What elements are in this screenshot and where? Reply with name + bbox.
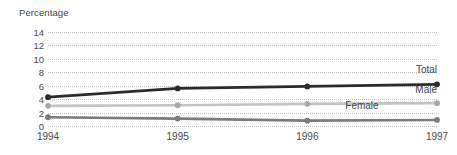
gridline [48, 126, 437, 127]
y-axis-tick-label: 4 [22, 94, 44, 105]
data-point-marker [45, 114, 51, 120]
data-point-marker [304, 118, 310, 124]
y-axis-title: Percentage [19, 7, 69, 18]
series-line [48, 103, 437, 106]
x-axis-labels: 1994199519961997 [48, 131, 437, 151]
series-label-male: Male [415, 84, 437, 95]
y-axis-tick-label: 0 [22, 121, 44, 132]
series-label-total: Total [416, 64, 437, 75]
plot-area [48, 32, 437, 126]
series-label-female: Female [345, 100, 378, 111]
y-axis-tick-label: 14 [22, 27, 44, 38]
data-point-marker [304, 83, 310, 89]
y-axis-tick-label: 12 [22, 40, 44, 51]
data-point-marker [175, 102, 181, 108]
data-point-marker [175, 86, 181, 92]
series-line [48, 117, 437, 120]
data-point-marker [304, 101, 310, 107]
series-lines [48, 32, 437, 126]
data-point-marker [434, 100, 440, 106]
x-axis-tick-label: 1994 [37, 131, 59, 142]
x-axis-tick-label: 1997 [426, 131, 448, 142]
y-axis-tick-label: 10 [22, 53, 44, 64]
line-chart: Percentage 02468101214 1994199519961997 … [0, 0, 457, 155]
y-axis-tick-label: 6 [22, 80, 44, 91]
x-axis-tick-label: 1995 [167, 131, 189, 142]
x-axis-tick-label: 1996 [296, 131, 318, 142]
y-axis-tick-label: 2 [22, 107, 44, 118]
data-point-marker [45, 94, 51, 100]
data-point-marker [434, 117, 440, 123]
data-point-marker [45, 103, 51, 109]
y-axis-tick-label: 8 [22, 67, 44, 78]
data-point-marker [175, 116, 181, 122]
series-line [48, 84, 437, 97]
y-axis-labels: 02468101214 [18, 32, 44, 126]
